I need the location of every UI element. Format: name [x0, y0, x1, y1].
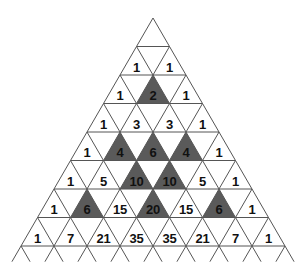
pascal-value: 1 — [133, 59, 140, 74]
pascal-value: 3 — [133, 116, 140, 131]
pascal-value: 4 — [117, 145, 124, 160]
pascal-value: 1 — [249, 202, 256, 217]
grid-line — [137, 18, 154, 47]
pascal-value: 21 — [196, 230, 210, 245]
grid-line — [177, 246, 186, 262]
grid-line — [276, 246, 285, 262]
grid-line — [153, 246, 162, 262]
grid-line — [144, 246, 153, 262]
pascal-value: 1 — [265, 230, 272, 245]
pascal-value: 7 — [232, 230, 239, 245]
pascal-value: 1 — [67, 173, 74, 188]
pascal-value: 5 — [199, 173, 206, 188]
pascal-value: 4 — [183, 145, 190, 160]
pascal-value: 1 — [232, 173, 239, 188]
grid-line — [210, 246, 219, 262]
pascal-value: 6 — [216, 202, 223, 217]
pascal-value: 6 — [150, 145, 157, 160]
grid-line — [45, 246, 54, 262]
grid-line — [12, 246, 21, 262]
pascal-value: 15 — [113, 202, 127, 217]
pascal-value: 10 — [163, 173, 177, 188]
pascal-value: 21 — [97, 230, 111, 245]
pascal-value: 35 — [163, 230, 177, 245]
grid-line — [186, 246, 195, 262]
grid-line — [153, 18, 170, 47]
pascal-value: 2 — [150, 88, 157, 103]
pascal-value: 35 — [130, 230, 144, 245]
pascal-value: 3 — [166, 116, 173, 131]
grid-line — [78, 246, 87, 262]
grid-line — [120, 246, 129, 262]
pascal-value: 1 — [166, 59, 173, 74]
pascal-value: 1 — [51, 202, 58, 217]
grid-line — [243, 246, 252, 262]
pascal-value: 1 — [199, 116, 206, 131]
pascal-triangle-grid — [0, 0, 306, 275]
pascal-value: 10 — [130, 173, 144, 188]
pascal-value: 1 — [84, 145, 91, 160]
grid-line — [111, 246, 120, 262]
grid-line — [87, 246, 96, 262]
grid-line — [285, 246, 294, 262]
pascal-value: 1 — [100, 116, 107, 131]
grid-line — [54, 246, 63, 262]
pascal-value: 5 — [100, 173, 107, 188]
pascal-value: 20 — [146, 202, 160, 217]
pascal-value: 7 — [67, 230, 74, 245]
pascal-value: 1 — [183, 88, 190, 103]
pascal-value: 6 — [84, 202, 91, 217]
grid-line — [252, 246, 261, 262]
pascal-value: 1 — [117, 88, 124, 103]
pascal-value: 1 — [216, 145, 223, 160]
grid-line — [219, 246, 228, 262]
pascal-value: 15 — [179, 202, 193, 217]
pascal-value: 1 — [34, 230, 41, 245]
grid-line — [21, 246, 30, 262]
